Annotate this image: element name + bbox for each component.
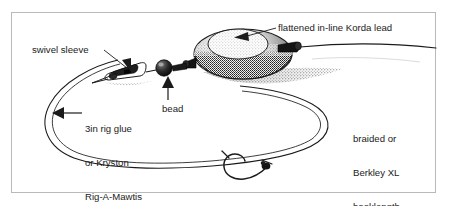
label-rig-glue: 3in rig glue or Kryston Rig-A-Mawtis bbox=[85, 100, 142, 206]
main-line bbox=[278, 44, 436, 51]
label-swivel-sleeve: swivel sleeve bbox=[32, 44, 89, 55]
label-hooklength-line1: braided or bbox=[353, 133, 400, 144]
lead-link bbox=[172, 63, 187, 71]
figure-canvas: flattened in-line Korda lead swivel slee… bbox=[0, 0, 449, 206]
line-bead-to-sleeve bbox=[146, 70, 156, 72]
main-line-shadow bbox=[312, 58, 420, 62]
bead bbox=[156, 60, 172, 76]
label-hooklength-line2: Berkley XL bbox=[353, 167, 400, 178]
arrow-rig-glue bbox=[52, 107, 82, 119]
hook bbox=[222, 151, 272, 179]
label-korda-lead: flattened in-line Korda lead bbox=[278, 22, 392, 33]
label-bead: bead bbox=[162, 103, 183, 114]
label-rig-glue-line3: Rig-A-Mawtis bbox=[85, 191, 142, 202]
arrow-bead bbox=[162, 76, 174, 100]
label-rig-glue-line2: or Kryston bbox=[85, 157, 142, 168]
label-rig-glue-line1: 3in rig glue bbox=[85, 123, 142, 134]
label-hooklength-line3: hooklength bbox=[353, 201, 400, 206]
swivel-sleeve-shadow bbox=[104, 81, 152, 85]
label-hooklength: braided or Berkley XL hooklength bbox=[353, 110, 400, 206]
